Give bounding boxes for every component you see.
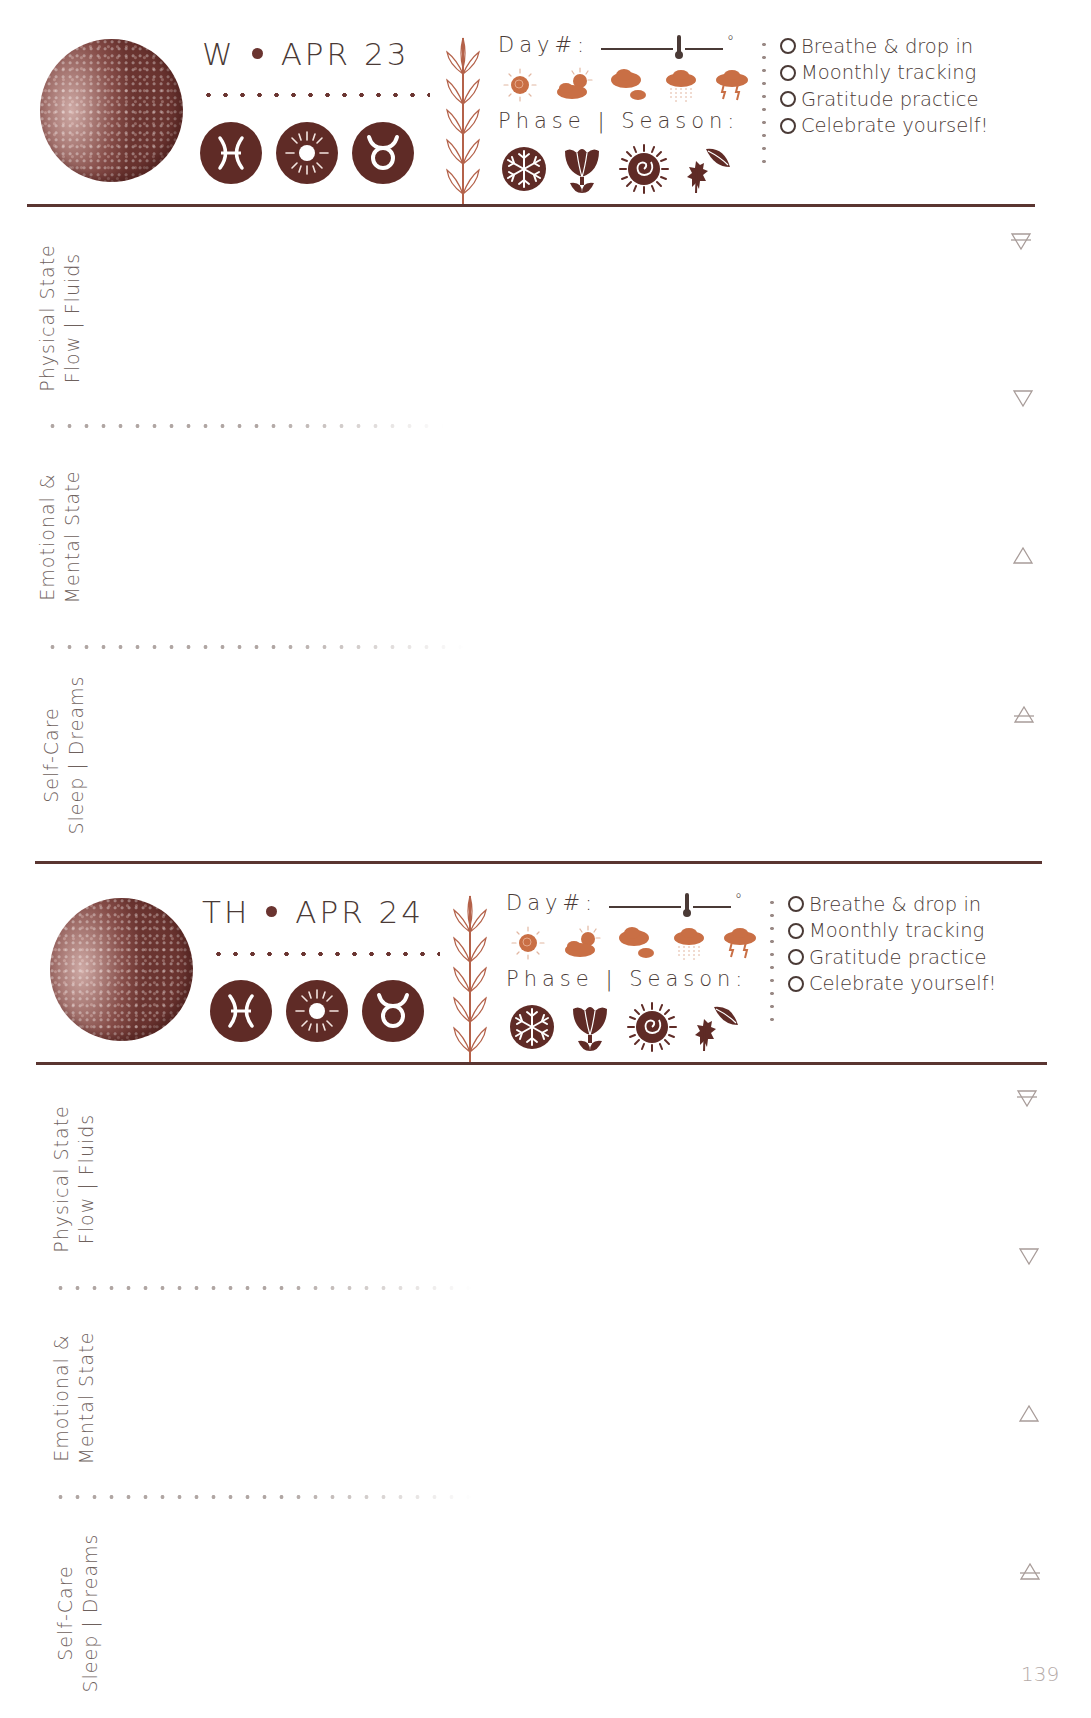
air-element-icon bbox=[1019, 1562, 1041, 1582]
header-rule bbox=[27, 204, 1035, 207]
page-number: 139 bbox=[1021, 1662, 1059, 1686]
day-number-label: Day#: bbox=[506, 891, 597, 915]
daily-checklist: Breathe & drop in Moonthly tracking Grat… bbox=[788, 891, 996, 997]
water-element-icon bbox=[1018, 1246, 1040, 1266]
checkbox-circle[interactable] bbox=[788, 976, 804, 992]
checkbox-circle[interactable] bbox=[780, 65, 796, 81]
checkbox-circle[interactable] bbox=[780, 38, 796, 54]
earth-element-icon bbox=[1010, 231, 1032, 251]
checkbox-circle[interactable] bbox=[788, 896, 804, 912]
checkbox-circle[interactable] bbox=[780, 91, 796, 107]
section-divider bbox=[44, 424, 444, 428]
storm-icon[interactable] bbox=[718, 924, 762, 962]
cloudy-icon[interactable] bbox=[614, 924, 658, 962]
vertical-dotted-divider bbox=[770, 896, 774, 1028]
section-label-selfcare: Self-CareSleep | Dreams bbox=[53, 1528, 109, 1698]
section-divider bbox=[52, 1286, 472, 1290]
phase-season-label: Phase | Season: bbox=[506, 967, 747, 991]
day-number-field[interactable]: Day#: ° bbox=[498, 33, 734, 57]
checklist-label: Gratitude practice bbox=[801, 88, 979, 111]
day-number-blank[interactable] bbox=[601, 48, 673, 50]
checklist-item[interactable]: Moonthly tracking bbox=[788, 918, 996, 945]
vertical-dotted-divider bbox=[762, 38, 766, 170]
spring-tulip-icon[interactable] bbox=[565, 1001, 615, 1053]
date-heading: THAPR 24 bbox=[202, 894, 424, 930]
checklist-label: Moonthly tracking bbox=[809, 919, 984, 942]
pisces-icon bbox=[200, 122, 262, 184]
day-entry-1: WAPR 23 Day#: ° Phase | Season: Breathe … bbox=[0, 0, 1091, 860]
autumn-leaves-icon[interactable] bbox=[684, 143, 734, 195]
dotted-divider bbox=[210, 952, 440, 956]
weekday: W bbox=[202, 36, 236, 72]
temperature-blank[interactable] bbox=[693, 906, 731, 908]
partly-cloudy-icon[interactable] bbox=[552, 66, 596, 104]
checkbox-circle[interactable] bbox=[788, 923, 804, 939]
taurus-icon bbox=[362, 980, 424, 1042]
checklist-item[interactable]: Breathe & drop in bbox=[780, 33, 988, 60]
fire-element-icon bbox=[1012, 546, 1034, 566]
checklist-label: Celebrate yourself! bbox=[809, 972, 996, 995]
physical-state-notes[interactable] bbox=[113, 1073, 1003, 1278]
checklist-item[interactable]: Celebrate yourself! bbox=[788, 971, 996, 998]
day-number-blank[interactable] bbox=[609, 906, 681, 908]
phase-season-label: Phase | Season: bbox=[498, 109, 739, 133]
cloudy-icon[interactable] bbox=[606, 66, 650, 104]
section-label-selfcare: Self-CareSleep | Dreams bbox=[39, 670, 95, 840]
section-label-emotional: Emotional &Mental State bbox=[49, 1313, 105, 1483]
emotional-state-notes[interactable] bbox=[113, 1298, 1003, 1488]
sunny-icon[interactable] bbox=[506, 924, 550, 962]
bullet-dot bbox=[266, 906, 277, 917]
checklist-item[interactable]: Gratitude practice bbox=[788, 944, 996, 971]
plant-divider-icon bbox=[443, 34, 483, 206]
physical-state-notes[interactable] bbox=[105, 215, 995, 415]
earth-element-icon bbox=[1016, 1088, 1038, 1108]
storm-icon[interactable] bbox=[710, 66, 754, 104]
autumn-leaves-icon[interactable] bbox=[692, 1001, 742, 1053]
section-label-physical: Physical StateFlow | Fluids bbox=[35, 233, 91, 403]
bullet-dot bbox=[252, 48, 263, 59]
winter-snowflake-icon[interactable] bbox=[507, 1001, 557, 1053]
day-number-field[interactable]: Day#: ° bbox=[506, 891, 742, 915]
winter-snowflake-icon[interactable] bbox=[499, 143, 549, 195]
self-care-notes[interactable] bbox=[105, 655, 995, 850]
thermometer-icon bbox=[685, 893, 689, 915]
checkbox-circle[interactable] bbox=[780, 118, 796, 134]
section-divider bbox=[44, 645, 464, 649]
checklist-label: Moonthly tracking bbox=[801, 61, 976, 84]
day-number-label: Day#: bbox=[498, 33, 589, 57]
day-entry-2: THAPR 24 Day#: ° Phase | Season: Breathe… bbox=[8, 858, 1091, 1718]
date: APR 23 bbox=[281, 36, 410, 72]
checklist-item[interactable]: Moonthly tracking bbox=[780, 60, 988, 87]
summer-sun-spiral-icon[interactable] bbox=[627, 1001, 677, 1053]
dotted-divider bbox=[200, 93, 430, 97]
emotional-state-notes[interactable] bbox=[105, 435, 995, 635]
daily-checklist: Breathe & drop in Moonthly tracking Grat… bbox=[780, 33, 988, 139]
date: APR 24 bbox=[295, 894, 424, 930]
temperature-blank[interactable] bbox=[685, 48, 723, 50]
spring-tulip-icon[interactable] bbox=[557, 143, 607, 195]
degree-symbol: ° bbox=[727, 33, 735, 51]
checklist-item[interactable]: Gratitude practice bbox=[780, 86, 988, 113]
sunny-icon[interactable] bbox=[498, 66, 542, 104]
rain-icon[interactable] bbox=[659, 66, 703, 104]
pisces-icon bbox=[210, 980, 272, 1042]
partly-cloudy-icon[interactable] bbox=[560, 924, 604, 962]
degree-symbol: ° bbox=[735, 891, 743, 909]
checklist-item[interactable]: Celebrate yourself! bbox=[780, 113, 988, 140]
checklist-label: Breathe & drop in bbox=[809, 893, 981, 916]
date-heading: WAPR 23 bbox=[202, 36, 409, 72]
self-care-notes[interactable] bbox=[113, 1506, 1003, 1696]
sun-icon bbox=[276, 122, 338, 184]
checklist-item[interactable]: Breathe & drop in bbox=[788, 891, 996, 918]
section-label-physical: Physical StateFlow | Fluids bbox=[49, 1094, 105, 1264]
checklist-label: Gratitude practice bbox=[809, 946, 987, 969]
section-divider bbox=[52, 1495, 472, 1499]
checkbox-circle[interactable] bbox=[788, 949, 804, 965]
header-rule bbox=[36, 1062, 1047, 1065]
plant-divider-icon bbox=[450, 892, 490, 1064]
rain-icon[interactable] bbox=[667, 924, 711, 962]
checklist-label: Breathe & drop in bbox=[801, 35, 973, 58]
summer-sun-spiral-icon[interactable] bbox=[619, 143, 669, 195]
section-label-emotional: Emotional &Mental State bbox=[35, 452, 91, 622]
air-element-icon bbox=[1013, 705, 1035, 725]
